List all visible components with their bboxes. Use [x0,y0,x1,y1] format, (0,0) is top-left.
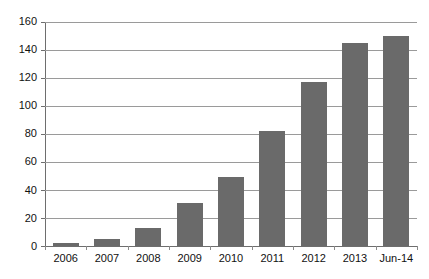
x-tick-8 [376,246,377,250]
x-tick-0 [45,246,46,250]
y-axis-label-120: 120 [0,72,37,83]
bar-slot-2007 [86,22,127,246]
y-axis-label-60: 60 [0,156,37,167]
bar-slot-2012 [293,22,334,246]
x-tick-5 [252,246,253,250]
y-axis-label-100: 100 [0,100,37,111]
bar-slot-2011 [252,22,293,246]
y-axis-label-140: 140 [0,44,37,55]
x-tick-4 [210,246,211,250]
x-tick-6 [293,246,294,250]
x-tick-2 [128,246,129,250]
bars-layer [45,22,417,246]
bar-slot-jun-14 [376,22,417,246]
x-tick-7 [334,246,335,250]
bar-slot-2010 [210,22,251,246]
x-axis-label-2009: 2009 [169,252,210,265]
bar-slot-2006 [45,22,86,246]
x-axis-label-2013: 2013 [334,252,375,265]
bar-2012[interactable] [301,82,327,246]
bar-2010[interactable] [218,177,244,246]
x-axis-label-2011: 2011 [252,252,293,265]
x-tick-3 [169,246,170,250]
x-axis-labels: 2006 2007 2008 2009 2010 2011 2012 2013 … [45,252,417,272]
bar-2013[interactable] [342,43,368,246]
y-axis-label-160: 160 [0,16,37,27]
x-axis-label-2010: 2010 [210,252,251,265]
x-tick-1 [86,246,87,250]
gridline-baseline-0 [45,246,417,247]
y-axis-label-0: 0 [0,241,37,252]
x-axis-label-2006: 2006 [45,252,86,265]
bar-slot-2009 [169,22,210,246]
bar-2011[interactable] [259,131,285,246]
x-axis-label-2008: 2008 [128,252,169,265]
x-axis-label-2012: 2012 [293,252,334,265]
x-tick-9 [417,246,418,250]
bar-2006[interactable] [53,243,79,246]
bar-2007[interactable] [94,239,120,246]
x-axis-label-jun-14: Jun-14 [376,252,417,265]
y-axis-label-80: 80 [0,128,37,139]
bar-jun-14[interactable] [383,36,409,246]
bar-slot-2013 [334,22,375,246]
bar-2009[interactable] [177,203,203,246]
x-axis-label-2007: 2007 [86,252,127,265]
y-axis-label-20: 20 [0,213,37,224]
bar-chart: 160 140 120 100 80 60 40 20 0 [0,0,429,279]
bar-2008[interactable] [135,228,161,246]
y-axis-label-40: 40 [0,185,37,196]
bar-slot-2008 [128,22,169,246]
